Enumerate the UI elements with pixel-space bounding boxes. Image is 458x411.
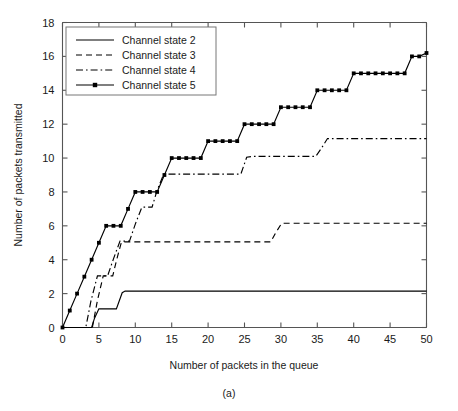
series-marker <box>410 54 414 58</box>
series-marker <box>359 71 363 75</box>
series-marker <box>425 51 429 55</box>
x-tick-label: 30 <box>275 333 287 345</box>
y-axis-label: Number of packets transmitted <box>12 103 24 246</box>
series-marker <box>141 190 145 194</box>
series-marker <box>206 139 210 143</box>
series-marker <box>417 54 421 58</box>
legend-label-1: Channel state 2 <box>122 34 196 46</box>
series-marker <box>148 190 152 194</box>
series-marker <box>294 105 298 109</box>
series-marker <box>221 139 225 143</box>
y-tick-label: 12 <box>42 118 54 130</box>
series-marker <box>352 71 356 75</box>
series-marker <box>388 71 392 75</box>
legend-swatch-marker <box>93 83 97 87</box>
series-marker <box>403 71 407 75</box>
legend-label-4: Channel state 5 <box>122 79 196 91</box>
series-marker <box>155 190 159 194</box>
x-tick-label: 5 <box>96 333 102 345</box>
series-marker <box>192 156 196 160</box>
series-marker <box>170 156 174 160</box>
series-marker <box>250 122 254 126</box>
x-tick-label: 25 <box>238 333 250 345</box>
series-marker <box>345 88 349 92</box>
legend-label-3: Channel state 4 <box>122 64 196 76</box>
x-tick-label: 50 <box>420 333 432 345</box>
series-marker <box>243 122 247 126</box>
x-tick-label: 0 <box>59 333 65 345</box>
series-marker <box>381 71 385 75</box>
series-marker <box>90 258 94 262</box>
series-marker <box>323 88 327 92</box>
y-tick-label: 4 <box>48 254 54 266</box>
y-tick-label: 14 <box>42 84 54 96</box>
series-marker <box>330 88 334 92</box>
series-marker <box>264 122 268 126</box>
series-marker <box>395 71 399 75</box>
x-tick-label: 40 <box>348 333 360 345</box>
series-marker <box>315 88 319 92</box>
x-tick-label: 10 <box>129 333 141 345</box>
x-tick-label: 45 <box>384 333 396 345</box>
x-tick-label: 15 <box>166 333 178 345</box>
series-marker <box>366 71 370 75</box>
series-marker <box>257 122 261 126</box>
figure-panel: 05101520253035404550 024681012141618 Num… <box>0 0 458 411</box>
series-marker <box>61 326 65 330</box>
series-marker <box>337 88 341 92</box>
x-tick-label: 35 <box>311 333 323 345</box>
series-marker <box>104 224 108 228</box>
series-marker <box>301 105 305 109</box>
series-marker <box>374 71 378 75</box>
series-marker <box>68 309 72 313</box>
figure-caption: (a) <box>223 387 236 399</box>
legend-label-2: Channel state 3 <box>122 49 196 61</box>
y-tick-label: 8 <box>48 186 54 198</box>
series-marker <box>213 139 217 143</box>
series-marker <box>308 105 312 109</box>
series-marker <box>97 241 101 245</box>
series-marker <box>228 139 232 143</box>
y-tick-label: 2 <box>48 288 54 300</box>
series-marker <box>279 105 283 109</box>
x-tick-label: 20 <box>202 333 214 345</box>
chart-legend: Channel state 2Channel state 3Channel st… <box>66 27 216 95</box>
x-axis-label: Number of packets in the queue <box>170 359 319 371</box>
series-marker <box>286 105 290 109</box>
series-marker <box>119 224 123 228</box>
y-tick-label: 10 <box>42 152 54 164</box>
y-tick-label: 0 <box>48 322 54 334</box>
series-marker <box>272 122 276 126</box>
series-marker <box>112 224 116 228</box>
series-marker <box>126 207 130 211</box>
series-marker <box>133 190 137 194</box>
y-tick-label: 18 <box>42 17 54 29</box>
series-marker <box>82 275 86 279</box>
series-marker <box>177 156 181 160</box>
chart-canvas: 05101520253035404550 024681012141618 Num… <box>0 0 458 411</box>
y-tick-label: 6 <box>48 220 54 232</box>
series-marker <box>199 156 203 160</box>
series-marker <box>235 139 239 143</box>
y-tick-label: 16 <box>42 50 54 62</box>
series-marker <box>75 292 79 296</box>
series-marker <box>163 173 167 177</box>
series-marker <box>184 156 188 160</box>
